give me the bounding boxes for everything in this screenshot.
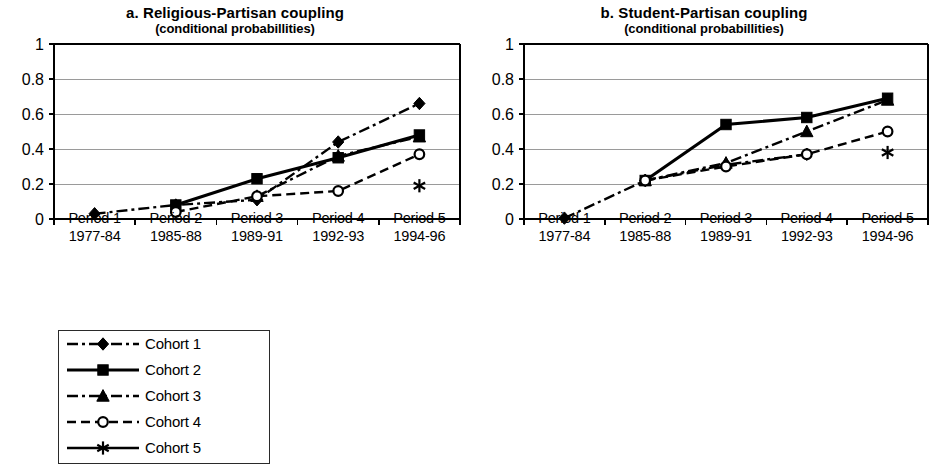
x-axis-category: Period 41992-93 — [766, 209, 847, 245]
x-axis-period-label: Period 4 — [298, 209, 379, 227]
y-axis-tick-label: 0.4 — [22, 141, 44, 158]
x-axis-period-label: Period 3 — [686, 209, 767, 227]
x-axis-years-label: 1992-93 — [298, 227, 379, 245]
y-axis-tick-label: 1 — [505, 36, 514, 53]
chart-panel-b: b. Student-Partisan coupling (conditiona… — [470, 0, 938, 300]
x-axis-period-label: Period 1 — [54, 209, 135, 227]
y-axis-tick-label: 0.8 — [22, 71, 44, 88]
chart-panel-a: a. Religious-Partisan coupling (conditio… — [0, 0, 470, 300]
x-axis-years-label: 1992-93 — [766, 227, 847, 245]
legend-item-label: Cohort 2 — [143, 361, 201, 379]
x-axis-years-label: 1977-84 — [54, 227, 135, 245]
chart-a-subtitle: (conditional probabillities) — [0, 21, 470, 36]
x-axis-category: Period 31989-91 — [686, 209, 767, 245]
x-axis-years-label: 1989-91 — [216, 227, 297, 245]
chart-b-subtitle: (conditional probabillities) — [470, 21, 938, 36]
legend-item-label: Cohort 4 — [143, 413, 201, 431]
x-axis-category: Period 51994-96 — [847, 209, 928, 245]
legend-item-cohort-5: Cohort 5 — [63, 435, 269, 461]
legend-key-circle-open-icon — [63, 410, 143, 434]
legend-key-square-icon — [63, 358, 143, 382]
x-axis-period-label: Period 5 — [847, 209, 928, 227]
legend-item-label: Cohort 3 — [143, 387, 201, 405]
series-line — [645, 100, 887, 181]
x-axis-period-label: Period 2 — [605, 209, 686, 227]
series-line — [645, 98, 887, 180]
y-axis-tick-label: 0.4 — [492, 141, 514, 158]
x-axis-years-label: 1977-84 — [524, 227, 605, 245]
y-axis-tick-label: 0.2 — [492, 176, 514, 193]
legend-item-cohort-1: Cohort 1 — [63, 331, 269, 357]
x-axis-category: Period 21985-88 — [135, 209, 216, 245]
x-axis-period-label: Period 1 — [524, 209, 605, 227]
legend-item-cohort-2: Cohort 2 — [63, 357, 269, 383]
y-axis-tick-label: 1 — [35, 36, 44, 53]
chart-legend: Cohort 1Cohort 2Cohort 3Cohort 4Cohort 5 — [58, 330, 270, 464]
x-axis-years-label: 1985-88 — [605, 227, 686, 245]
x-axis-years-label: 1985-88 — [135, 227, 216, 245]
x-axis-category: Period 21985-88 — [605, 209, 686, 245]
x-axis-category: Period 31989-91 — [216, 209, 297, 245]
chart-a-title: a. Religious-Partisan coupling — [0, 0, 470, 21]
y-axis-tick-label: 0.8 — [492, 71, 514, 88]
y-axis-tick-label: 0.2 — [22, 176, 44, 193]
legend-key-diamond-icon — [63, 332, 143, 356]
x-axis-category: Period 11977-84 — [524, 209, 605, 245]
legend-key-asterisk-icon — [63, 436, 143, 460]
x-axis-category: Period 11977-84 — [54, 209, 135, 245]
y-axis-tick-label: 0 — [505, 211, 514, 228]
chart-b-x-axis-labels: Period 11977-84Period 21985-88Period 319… — [524, 209, 928, 245]
x-axis-category: Period 51994-96 — [379, 209, 460, 245]
x-axis-period-label: Period 5 — [379, 209, 460, 227]
x-axis-years-label: 1994-96 — [847, 227, 928, 245]
y-axis-tick-label: 0 — [35, 211, 44, 228]
x-axis-period-label: Period 3 — [216, 209, 297, 227]
chart-a-x-axis-labels: Period 11977-84Period 21985-88Period 319… — [54, 209, 460, 245]
series-markers — [414, 179, 425, 192]
chart-b-title: b. Student-Partisan coupling — [470, 0, 938, 21]
legend-item-label: Cohort 1 — [143, 335, 201, 353]
x-axis-category: Period 41992-93 — [298, 209, 379, 245]
x-axis-period-label: Period 2 — [135, 209, 216, 227]
y-axis-tick-label: 0.6 — [492, 106, 514, 123]
legend-item-label: Cohort 5 — [143, 439, 201, 457]
legend-item-cohort-3: Cohort 3 — [63, 383, 269, 409]
legend-item-cohort-4: Cohort 4 — [63, 409, 269, 435]
series-markers — [882, 146, 893, 159]
x-axis-years-label: 1994-96 — [379, 227, 460, 245]
y-axis-tick-label: 0.6 — [22, 106, 44, 123]
legend-key-triangle-icon — [63, 384, 143, 408]
x-axis-period-label: Period 4 — [766, 209, 847, 227]
x-axis-years-label: 1989-91 — [686, 227, 767, 245]
